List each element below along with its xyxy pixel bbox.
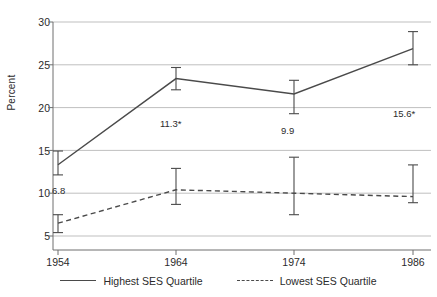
gridlines bbox=[53, 22, 431, 236]
annotation-1954: 6.8 bbox=[52, 185, 65, 196]
annotation-1986: 15.6* bbox=[393, 108, 415, 119]
legend-solid-line-icon bbox=[60, 280, 96, 283]
errorbars-highest-ses-quartile bbox=[53, 32, 418, 175]
x-tick-1974: 1974 bbox=[271, 256, 317, 268]
legend-item-highest-ses-quartile: Highest SES Quartile bbox=[60, 275, 202, 287]
chart-legend: Highest SES Quartile Lowest SES Quartile bbox=[0, 270, 437, 292]
series-highest-ses-quartile bbox=[53, 32, 418, 175]
legend-item-lowest-ses-quartile: Lowest SES Quartile bbox=[237, 275, 377, 287]
x-tick-1986: 1986 bbox=[390, 256, 436, 268]
legend-label-lowest-ses-quartile: Lowest SES Quartile bbox=[280, 275, 377, 287]
x-tick-1964: 1964 bbox=[153, 256, 199, 268]
legend-label-highest-ses-quartile: Highest SES Quartile bbox=[103, 275, 202, 287]
plot-canvas bbox=[0, 0, 437, 297]
annotation-1974: 9.9 bbox=[281, 125, 294, 136]
legend-dashed-line-icon bbox=[237, 280, 273, 283]
series-lowest-ses-quartile bbox=[53, 157, 418, 232]
line-lowest-ses-quartile bbox=[58, 190, 413, 223]
x-tick-1954: 1954 bbox=[35, 256, 81, 268]
y-tickmarks bbox=[48, 22, 53, 236]
x-tickmarks bbox=[58, 250, 413, 255]
axis-spines bbox=[53, 22, 431, 250]
line-highest-ses-quartile bbox=[58, 49, 413, 165]
chart-figure: Percent 30 25 20 15 10 5 bbox=[0, 0, 437, 297]
annotation-1964: 11.3* bbox=[160, 118, 181, 129]
